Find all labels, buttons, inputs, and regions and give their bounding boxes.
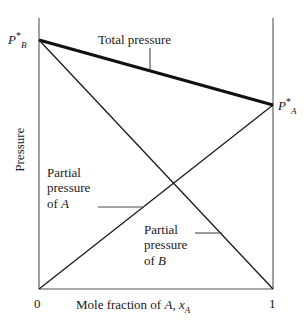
- pa-star-label: P*A: [278, 96, 296, 117]
- partial-pressure-a-line3-prefix: of: [47, 196, 61, 211]
- partial-pressure-b-line1: Partial: [144, 222, 187, 237]
- x-axis-title: Mole fraction of A, xA: [76, 297, 190, 315]
- partial-pressure-b-line3: of B: [144, 253, 187, 268]
- total-pressure-annotation: Total pressure: [98, 32, 171, 47]
- x-tick-label-0: 0: [34, 296, 41, 311]
- partial-pressure-a-line2: pressure: [47, 180, 90, 195]
- partial-pressure-a-line3: of A: [47, 196, 90, 211]
- pa-subscript: A: [291, 106, 297, 116]
- pa-symbol: P: [278, 98, 286, 113]
- partial-pressure-a-annotation: Partial pressure of A: [47, 165, 90, 211]
- partial-pressure-b-component: B: [158, 253, 166, 268]
- partial-pressure-a-component: A: [61, 196, 69, 211]
- x-axis-title-variable-subscript: A: [185, 305, 191, 315]
- pb-symbol: P: [8, 32, 16, 47]
- x-axis-title-prefix: Mole fraction of: [76, 297, 164, 312]
- pressure-composition-diagram: P*B P*A Pressure Mole fraction of A, xA …: [0, 0, 307, 330]
- partial-pressure-b-line3-prefix: of: [144, 253, 158, 268]
- y-axis-title: Pressure: [12, 110, 27, 190]
- pb-star-label: P*B: [8, 30, 26, 51]
- partial-pressure-b-line2: pressure: [144, 237, 187, 252]
- partial-pressure-b-annotation: Partial pressure of B: [144, 222, 187, 268]
- partial-pressure-a-line1: Partial: [47, 165, 90, 180]
- pb-subscript: B: [21, 40, 27, 50]
- total-pressure-line: [39, 40, 273, 105]
- x-tick-label-1: 1: [269, 296, 276, 311]
